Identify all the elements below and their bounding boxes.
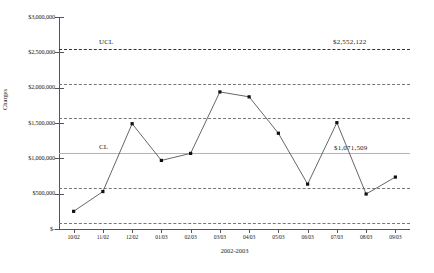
data-point <box>365 192 368 195</box>
data-point <box>101 190 104 193</box>
data-series <box>59 17 410 229</box>
x-tick-mark <box>395 229 396 233</box>
data-point <box>131 122 134 125</box>
x-tick-mark <box>249 229 250 233</box>
x-tick-mark <box>74 229 75 233</box>
data-point <box>160 159 163 162</box>
data-point <box>335 121 338 124</box>
x-tick-mark <box>366 229 367 233</box>
y-tick-label: $1,500,000 <box>0 120 55 126</box>
data-point <box>72 210 75 213</box>
y-axis-title: Charges <box>1 89 8 110</box>
x-tick-mark <box>308 229 309 233</box>
data-point <box>277 132 280 135</box>
y-tick-label: $3,000,000 <box>0 14 55 20</box>
x-tick-mark <box>132 229 133 233</box>
y-tick-label: $1,000,000 <box>0 155 55 161</box>
x-axis-title: 2002-2003 <box>59 247 410 254</box>
x-tick-mark <box>337 229 338 233</box>
data-point <box>218 90 221 93</box>
y-tick-mark <box>55 229 64 230</box>
data-point <box>189 152 192 155</box>
y-tick-label: $- <box>0 226 55 232</box>
ucl-value-label: $2,552,122 <box>333 38 367 46</box>
x-axis-line <box>59 229 410 230</box>
x-tick-mark <box>220 229 221 233</box>
y-tick-label: $500,000 <box>0 190 55 196</box>
data-point <box>394 175 397 178</box>
x-tick-mark <box>191 229 192 233</box>
data-point <box>306 183 309 186</box>
data-point <box>248 95 251 98</box>
control-chart: Charges 2002-2003 $-$500,000$1,000,000$1… <box>0 0 434 273</box>
x-tick-mark <box>161 229 162 233</box>
y-tick-label: $2,000,000 <box>0 84 55 90</box>
plot-area: $-$500,000$1,000,000$1,500,000$2,000,000… <box>59 17 410 229</box>
x-tick-label: 09/03 <box>375 234 415 240</box>
x-tick-mark <box>103 229 104 233</box>
cl-label: CL <box>99 143 108 151</box>
y-tick-label: $2,500,000 <box>0 49 55 55</box>
ucl-label: UCL <box>99 38 114 46</box>
cl-value-label: $1,071,509 <box>334 144 368 152</box>
x-tick-mark <box>278 229 279 233</box>
